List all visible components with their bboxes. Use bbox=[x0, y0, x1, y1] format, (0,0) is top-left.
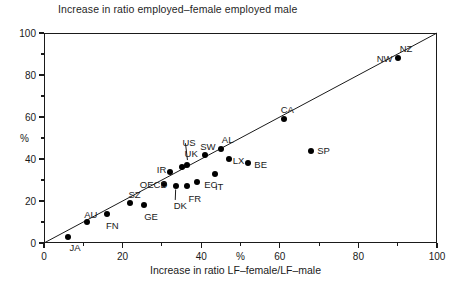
x-tick-minor bbox=[161, 243, 162, 246]
y-axis-label: % bbox=[20, 133, 29, 144]
x-tick-major bbox=[358, 243, 359, 248]
data-point-label: SZ bbox=[128, 190, 140, 200]
data-point-marker[interactable] bbox=[167, 169, 173, 175]
y-tick-major bbox=[39, 32, 44, 33]
x-tick-major bbox=[43, 243, 44, 248]
y-tick-label: 80 bbox=[25, 70, 36, 81]
data-point-marker[interactable] bbox=[395, 55, 401, 61]
data-point-marker[interactable] bbox=[218, 146, 224, 152]
x-tick-label: 40 bbox=[196, 251, 207, 262]
chart-title: Increase in ratio employed–female employ… bbox=[58, 3, 297, 15]
data-point-marker[interactable] bbox=[226, 156, 232, 162]
y-tick-minor bbox=[41, 137, 44, 138]
data-point-marker[interactable] bbox=[141, 202, 147, 208]
x-tick-label: 80 bbox=[353, 251, 364, 262]
x-axis-unit-label: % bbox=[236, 251, 245, 262]
data-point-label: FN bbox=[106, 221, 119, 231]
x-tick-label: 60 bbox=[274, 251, 285, 262]
x-tick-minor bbox=[83, 243, 84, 246]
data-point-label: AL bbox=[222, 135, 234, 145]
y-tick-major bbox=[39, 74, 44, 75]
y-tick-minor bbox=[41, 95, 44, 96]
x-tick-label: 0 bbox=[41, 251, 47, 262]
y-tick-minor bbox=[41, 221, 44, 222]
data-point-label: CA bbox=[281, 105, 294, 115]
data-point-label: IR bbox=[157, 165, 167, 175]
data-point-marker[interactable] bbox=[202, 152, 208, 158]
x-tick-major bbox=[201, 243, 202, 248]
data-point-label: AU bbox=[84, 210, 97, 220]
data-point-label: BE bbox=[254, 160, 267, 170]
y-tick-label: 60 bbox=[25, 112, 36, 123]
data-point-label: US bbox=[182, 138, 195, 148]
data-point-label: FR bbox=[188, 194, 201, 204]
data-point-marker[interactable] bbox=[65, 234, 71, 240]
data-point-marker[interactable] bbox=[281, 116, 287, 122]
y-tick-major bbox=[39, 158, 44, 159]
data-point-marker[interactable] bbox=[245, 160, 251, 166]
y-tick-label: 100 bbox=[19, 28, 36, 39]
data-point-label: DK bbox=[174, 201, 187, 211]
x-tick-major bbox=[122, 243, 123, 248]
y-tick-label: 20 bbox=[25, 196, 36, 207]
data-point-marker[interactable] bbox=[104, 211, 110, 217]
scatter-plot-figure: Increase in ratio employed–female employ… bbox=[0, 0, 471, 288]
y-tick-major bbox=[39, 200, 44, 201]
data-point-label: NZ bbox=[400, 44, 413, 54]
x-tick-minor bbox=[319, 243, 320, 246]
y-tick-minor bbox=[41, 179, 44, 180]
data-point-label: UK bbox=[185, 149, 198, 159]
data-point-marker[interactable] bbox=[194, 179, 200, 185]
x-tick-label: 20 bbox=[117, 251, 128, 262]
data-point-label: OECD bbox=[140, 180, 167, 190]
data-point-marker[interactable] bbox=[184, 162, 190, 168]
data-point-label: SP bbox=[317, 146, 330, 156]
data-point-marker[interactable] bbox=[127, 200, 133, 206]
y-tick-major bbox=[39, 116, 44, 117]
y-tick-label: 0 bbox=[30, 238, 36, 249]
data-point-label: GE bbox=[144, 212, 158, 222]
x-tick-minor bbox=[397, 243, 398, 246]
x-tick-major bbox=[279, 243, 280, 248]
data-point-label: LX bbox=[233, 156, 245, 166]
data-point-label: NW bbox=[377, 54, 393, 64]
data-point-label: SW bbox=[200, 142, 215, 152]
data-point-label: IT bbox=[215, 182, 223, 192]
y-tick-minor bbox=[41, 53, 44, 54]
plot-frame bbox=[44, 33, 437, 243]
data-point-marker[interactable] bbox=[173, 183, 179, 189]
x-tick-label: 100 bbox=[429, 251, 446, 262]
y-tick-label: 40 bbox=[25, 154, 36, 165]
data-point-label: JA bbox=[70, 243, 81, 253]
data-point-marker[interactable] bbox=[184, 183, 190, 189]
data-point-marker[interactable] bbox=[212, 171, 218, 177]
data-point-marker[interactable] bbox=[308, 148, 314, 154]
x-axis-label: Increase in ratio LF–female/LF–male bbox=[150, 264, 321, 276]
x-tick-minor bbox=[240, 243, 241, 246]
x-tick-major bbox=[436, 243, 437, 248]
